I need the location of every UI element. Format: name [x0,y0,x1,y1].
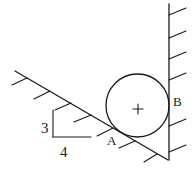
inclined-plane [12,71,168,162]
wall-hatch [169,8,186,15]
wall-hatch [169,119,186,126]
wall-hatch [169,52,186,59]
vertical-wall [169,4,186,160]
incline-hatch [12,78,27,85]
slope-rise-label: 3 [41,120,49,136]
statics-diagram: 3 4 A B [0,0,196,175]
wall-hatch [169,31,186,38]
cylinder [106,74,169,137]
incline-hatch [55,103,71,110]
incline-hatch [34,91,50,99]
wall-hatch [169,145,186,152]
slope-run-label: 4 [60,144,68,160]
incline-hatch [119,141,135,148]
wall-hatch [169,73,186,80]
incline-hatch [144,154,157,162]
contact-point-a-label: A [107,133,117,148]
incline-hatch [74,115,91,122]
incline-line [15,71,168,160]
contact-point-b-label: B [173,94,182,109]
